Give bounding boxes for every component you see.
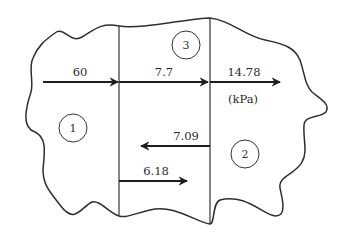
label-7-7: 7.7 [155,65,173,79]
label-14-78: 14.78 [228,65,261,79]
region-2-label: 2 [242,148,249,161]
unit-label: (kPa) [228,92,258,106]
label-7-09: 7.09 [173,129,199,143]
label-6-18: 6.18 [143,164,169,178]
region-1-label: 1 [70,122,77,135]
region-3-label: 3 [183,39,190,52]
diagram-canvas: 60 7.7 14.78 (kPa) 7.09 6.18 1 2 3 [0,0,341,245]
domain-boundary [26,18,327,224]
label-60: 60 [73,65,88,79]
